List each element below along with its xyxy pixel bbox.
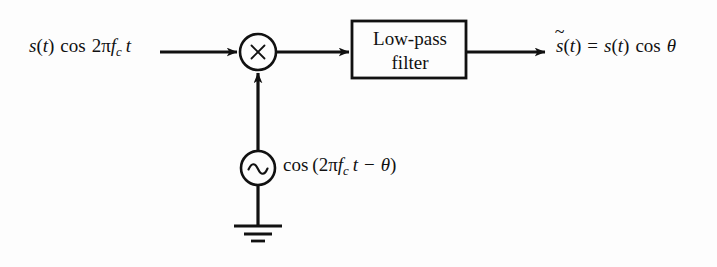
oscillator-cos-operator: cos bbox=[283, 154, 308, 175]
input-cos-operator: cos bbox=[60, 35, 85, 56]
oscillator-theta-symbol: θ bbox=[381, 154, 390, 175]
oscillator-time-variable: t bbox=[353, 154, 358, 175]
tilde-accent-icon: ~ bbox=[555, 23, 565, 41]
oscillator-coefficient-two: 2 bbox=[319, 154, 329, 175]
filter-label-line-2: filter bbox=[392, 52, 429, 73]
input-time-variable-trailing: t bbox=[126, 35, 131, 56]
output-theta-symbol: θ bbox=[667, 35, 676, 56]
oscillator-paren-close: ) bbox=[390, 154, 396, 175]
output-cos-operator: cos bbox=[635, 35, 660, 56]
low-pass-filter-label: Low-pass filter bbox=[353, 27, 467, 75]
input-coefficient-two: 2 bbox=[92, 35, 102, 56]
oscillator-expression: cos(2πfct−θ) bbox=[283, 155, 396, 178]
filter-label-line-1: Low-pass bbox=[373, 28, 447, 49]
input-carrier-subscript: c bbox=[116, 44, 122, 59]
output-paren-close-2: ) bbox=[623, 35, 629, 56]
output-equals-sign: = bbox=[587, 35, 598, 56]
oscillator-carrier-subscript: c bbox=[343, 163, 349, 178]
output-paren-close: ) bbox=[575, 35, 581, 56]
ground-symbol bbox=[234, 226, 282, 241]
oscillator-minus-sign: − bbox=[364, 154, 375, 175]
input-pi-symbol: π bbox=[101, 35, 111, 56]
oscillator-pi-symbol: π bbox=[328, 154, 338, 175]
output-signal-symbol-tilde: s ~ bbox=[556, 36, 563, 55]
input-paren-close: ) bbox=[48, 35, 54, 56]
output-signal-expression: s ~ (t)=s(t)cosθ bbox=[556, 36, 676, 55]
input-signal-expression: s(t)cos2πfct bbox=[29, 36, 131, 59]
block-diagram-figure: s(t)cos2πfct Low-pass filter s ~ (t)=s(t… bbox=[0, 0, 717, 267]
